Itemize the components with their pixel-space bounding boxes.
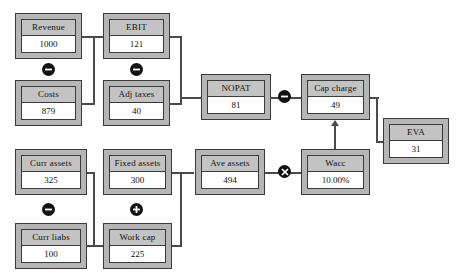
node-costs-inner: Costs 879 (21, 86, 76, 120)
connector-workcap-right (172, 245, 182, 247)
node-work-cap-inner: Work cap 225 (109, 229, 166, 263)
node-cap-charge[interactable]: Cap charge 49 (301, 74, 370, 120)
node-ebit[interactable]: EBIT 121 (103, 13, 170, 59)
node-cap-charge-label: Cap charge (308, 81, 363, 97)
plus-icon (133, 206, 140, 213)
minus-operator-currassets-currliabs (42, 203, 55, 216)
node-fixed-assets-inner: Fixed assets 300 (109, 155, 166, 189)
minus-operator-revenue-costs (42, 63, 55, 76)
node-work-cap-value: 225 (110, 246, 165, 262)
node-curr-assets-label: Curr assets (22, 156, 80, 172)
node-ebit-label: EBIT (110, 20, 163, 36)
node-eva-inner: EVA 31 (389, 124, 443, 158)
node-fixed-assets-value: 300 (110, 172, 165, 188)
connector-currassets-currliabs-vertical (93, 172, 95, 247)
minus-icon (281, 93, 288, 100)
node-cap-charge-inner: Cap charge 49 (307, 80, 364, 114)
node-nopat[interactable]: NOPAT 81 (201, 74, 271, 120)
node-curr-liabs-value: 100 (22, 246, 80, 262)
minus-icon (45, 66, 52, 73)
node-ave-assets-inner: Ave assets 494 (201, 155, 259, 189)
node-ave-assets[interactable]: Ave assets 494 (195, 149, 265, 195)
node-cap-charge-value: 49 (308, 97, 363, 113)
node-wacc-inner: Wacc 10.00% (307, 155, 364, 189)
minus-icon (133, 66, 140, 73)
node-revenue-value: 1000 (22, 36, 75, 52)
node-nopat-value: 81 (208, 97, 264, 113)
node-nopat-inner: NOPAT 81 (207, 80, 265, 114)
node-work-cap-label: Work cap (110, 230, 165, 246)
node-revenue-inner: Revenue 1000 (21, 19, 76, 53)
node-work-cap[interactable]: Work cap 225 (103, 223, 172, 269)
node-curr-assets[interactable]: Curr assets 325 (15, 149, 87, 195)
connector-revenue-costs-vertical (93, 36, 95, 104)
minus-operator-nopat-capcharge (278, 90, 291, 103)
node-wacc-value: 10.00% (308, 172, 363, 188)
node-ave-assets-value: 494 (202, 172, 258, 188)
node-curr-liabs[interactable]: Curr liabs 100 (15, 223, 87, 269)
arrowhead-wacc-to-capcharge (331, 120, 339, 126)
node-costs[interactable]: Costs 879 (15, 80, 82, 126)
node-revenue[interactable]: Revenue 1000 (15, 13, 82, 59)
node-nopat-label: NOPAT (208, 81, 264, 97)
node-ebit-value: 121 (110, 36, 163, 52)
connector-to-aveassets (180, 172, 194, 174)
eva-diagram-canvas: Revenue 1000 EBIT 121 Costs 879 Adj taxe… (0, 0, 462, 277)
node-ebit-inner: EBIT 121 (109, 19, 164, 53)
node-curr-liabs-label: Curr liabs (22, 230, 80, 246)
node-eva[interactable]: EVA 31 (383, 118, 449, 164)
connector-fixedassets-workcap-vertical (180, 172, 182, 247)
multiply-icon (281, 168, 289, 176)
minus-operator-ebit-adjtaxes (130, 63, 143, 76)
node-adj-taxes-inner: Adj taxes 40 (109, 86, 164, 120)
node-costs-value: 879 (22, 103, 75, 119)
plus-operator-fixedassets-workcap (130, 203, 143, 216)
node-costs-label: Costs (22, 87, 75, 103)
multiply-operator-aveassets-wacc (278, 165, 291, 178)
node-curr-liabs-inner: Curr liabs 100 (21, 229, 81, 263)
connector-adjtaxes-right (170, 103, 182, 105)
node-eva-label: EVA (390, 125, 442, 141)
node-ave-assets-label: Ave assets (202, 156, 258, 172)
connector-wacc-capcharge-vertical (334, 126, 336, 150)
node-fixed-assets[interactable]: Fixed assets 300 (103, 149, 172, 195)
node-wacc[interactable]: Wacc 10.00% (301, 149, 370, 195)
node-revenue-label: Revenue (22, 20, 75, 36)
connector-capcharge-eva-vertical (376, 97, 378, 142)
connector-to-nopat (180, 97, 201, 99)
connector-nopat-entry-vertical (180, 36, 182, 98)
node-adj-taxes-label: Adj taxes (110, 87, 163, 103)
node-adj-taxes[interactable]: Adj taxes 40 (103, 80, 170, 126)
node-eva-value: 31 (390, 141, 442, 157)
node-curr-assets-value: 325 (22, 172, 80, 188)
node-fixed-assets-label: Fixed assets (110, 156, 165, 172)
connector-costs-right (82, 103, 95, 105)
node-adj-taxes-value: 40 (110, 103, 163, 119)
minus-icon (45, 206, 52, 213)
node-curr-assets-inner: Curr assets 325 (21, 155, 81, 189)
node-wacc-label: Wacc (308, 156, 363, 172)
